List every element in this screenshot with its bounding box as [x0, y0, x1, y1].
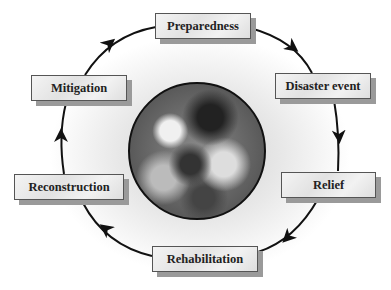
stage-label: Relief — [313, 178, 344, 193]
stage-rehabilitation: Rehabilitation — [152, 246, 258, 272]
stage-reconstruction: Reconstruction — [14, 174, 124, 200]
stage-mitigation: Mitigation — [31, 75, 127, 101]
stage-preparedness: Preparedness — [155, 13, 251, 39]
arrow-rehabilitation-to-reconstruction — [83, 203, 152, 256]
stage-label: Disaster event — [285, 79, 360, 94]
earth-globe-image — [128, 82, 266, 220]
stage-label: Reconstruction — [28, 180, 109, 195]
arrow-disaster-to-relief — [334, 100, 339, 171]
arrow-preparedness-to-disaster — [250, 28, 312, 73]
stage-label: Preparedness — [167, 19, 239, 34]
arrow-relief-to-rehabilitation — [258, 199, 318, 252]
disaster-cycle-diagram: Preparedness Disaster event Relief Rehab… — [0, 0, 391, 290]
stage-label: Rehabilitation — [167, 252, 243, 267]
stage-disaster-event: Disaster event — [275, 73, 371, 99]
stage-relief: Relief — [281, 172, 376, 198]
stage-label: Mitigation — [51, 81, 107, 96]
arrow-mitigation-to-preparedness — [85, 27, 156, 75]
arrow-reconstruction-to-mitigation — [61, 103, 66, 174]
